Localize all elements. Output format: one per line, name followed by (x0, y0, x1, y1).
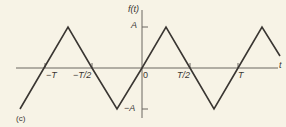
x-tick-label-minus-T: −T (46, 71, 57, 80)
y-axis-label: f(t) (128, 5, 139, 14)
x-tick-label-T: T (238, 71, 244, 80)
x-tick-label-minus-T-half: −T/2 (73, 71, 91, 80)
triangle-wave-plot (0, 0, 286, 127)
x-tick-label-zero: 0 (143, 71, 148, 80)
y-tick-label-minus-A: −A (124, 104, 135, 113)
y-tick-label-A: A (131, 21, 137, 30)
panel-label: (c) (16, 115, 25, 123)
x-axis-label: t (279, 61, 282, 70)
x-tick-label-T-half: T/2 (177, 71, 190, 80)
